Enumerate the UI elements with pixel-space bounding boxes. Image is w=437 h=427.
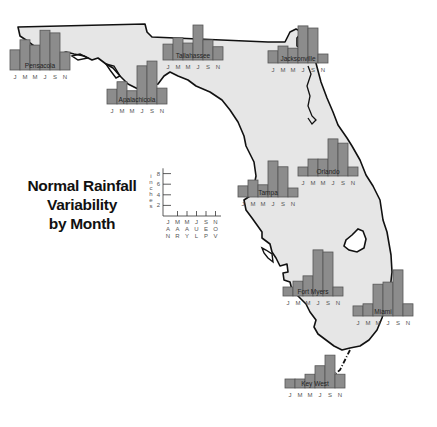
bar	[318, 54, 328, 63]
month-label: J	[14, 74, 17, 80]
legend-month-letter: N	[166, 233, 170, 239]
month-label: M	[23, 74, 28, 80]
month-label: M	[366, 320, 371, 326]
month-label: J	[387, 320, 390, 326]
month-label: J	[319, 392, 322, 398]
legend-month-letter: J	[195, 219, 198, 225]
bar	[348, 167, 358, 176]
city-label: Tampa	[258, 189, 278, 197]
month-label: N	[338, 392, 342, 398]
bar	[60, 52, 70, 70]
legend-y-tick-label: 4	[157, 192, 161, 198]
legend-month-letter: P	[204, 233, 208, 239]
month-label: N	[160, 108, 164, 114]
legend-y-tick-label: 2	[157, 202, 161, 208]
city-label: Pensacola	[25, 62, 56, 69]
bar	[268, 51, 278, 63]
month-label: J	[111, 108, 114, 114]
legend-month-letter: A	[166, 226, 170, 232]
month-label: N	[321, 67, 325, 73]
month-label: M	[291, 67, 296, 73]
month-label: J	[289, 392, 292, 398]
bar	[285, 379, 295, 388]
title-line-2: Variability	[22, 195, 142, 214]
bar	[213, 47, 223, 60]
month-label: J	[242, 201, 245, 207]
month-label: S	[326, 300, 330, 306]
month-label: S	[341, 180, 345, 186]
month-label: S	[281, 201, 285, 207]
legend-month-letter: E	[204, 226, 208, 232]
month-label: S	[206, 64, 210, 70]
legend-month-letter: A	[175, 226, 179, 232]
month-label: J	[197, 64, 200, 70]
month-label: M	[296, 300, 301, 306]
legend-month-letter: R	[175, 233, 180, 239]
bar	[353, 306, 363, 316]
title-line-3: by Month	[22, 214, 142, 233]
month-label: J	[44, 74, 47, 80]
legend-month-letter: V	[213, 233, 217, 239]
month-label: S	[311, 67, 315, 73]
bar	[298, 167, 308, 176]
bar	[283, 287, 293, 296]
legend: 2468JANMARMAYJULSEPNOVinches	[149, 168, 221, 239]
bar	[288, 188, 298, 197]
month-label: J	[141, 108, 144, 114]
city-label: Tallahassee	[176, 52, 211, 59]
month-label: N	[291, 201, 295, 207]
month-label: N	[216, 64, 220, 70]
legend-month-letter: M	[185, 219, 190, 225]
month-label: J	[332, 180, 335, 186]
bar	[403, 304, 413, 316]
city-label: Fort Myers	[297, 288, 329, 296]
city-label: Orlando	[316, 168, 340, 175]
month-label: M	[376, 320, 381, 326]
bar	[10, 50, 20, 70]
month-label: J	[167, 64, 170, 70]
month-label: J	[272, 67, 275, 73]
map-title: Normal Rainfall Variability by Month	[22, 176, 142, 233]
month-label: N	[63, 74, 67, 80]
month-label: M	[130, 108, 135, 114]
bar	[335, 374, 345, 388]
bar	[393, 270, 403, 316]
bar	[163, 44, 173, 60]
month-label: J	[287, 300, 290, 306]
bar	[363, 304, 373, 316]
month-label: M	[298, 392, 303, 398]
legend-y-tick-label: 8	[157, 171, 161, 177]
city-label: Jacksonville	[280, 55, 315, 62]
month-label: J	[302, 67, 305, 73]
legend-month-letter: U	[194, 226, 198, 232]
legend-month-letter: M	[175, 219, 180, 225]
city-label: Miami	[374, 308, 391, 315]
month-label: J	[302, 180, 305, 186]
legend-month-letter: Y	[185, 233, 189, 239]
bar	[333, 287, 343, 296]
month-label: M	[281, 67, 286, 73]
month-label: M	[311, 180, 316, 186]
legend-month-letter: L	[195, 233, 199, 239]
title-line-1: Normal Rainfall	[22, 176, 142, 195]
legend-month-letter: O	[213, 226, 218, 232]
bar	[278, 167, 288, 197]
city-chart-key-west: Key WestJMMJSN	[285, 355, 345, 398]
month-label: M	[176, 64, 181, 70]
month-label: M	[261, 201, 266, 207]
bar	[248, 180, 258, 197]
month-label: N	[336, 300, 340, 306]
bar	[157, 88, 167, 104]
month-label: J	[272, 201, 275, 207]
legend-y-tick-label: 6	[157, 181, 161, 187]
month-label: J	[357, 320, 360, 326]
month-label: S	[53, 74, 57, 80]
month-label: N	[351, 180, 355, 186]
month-label: M	[306, 300, 311, 306]
month-label: M	[251, 201, 256, 207]
month-label: N	[406, 320, 410, 326]
legend-month-letter: N	[213, 219, 217, 225]
city-label: Key West	[301, 380, 329, 388]
legend-axis-letter: s	[150, 203, 153, 209]
city-label: Apalachicola	[119, 96, 156, 104]
